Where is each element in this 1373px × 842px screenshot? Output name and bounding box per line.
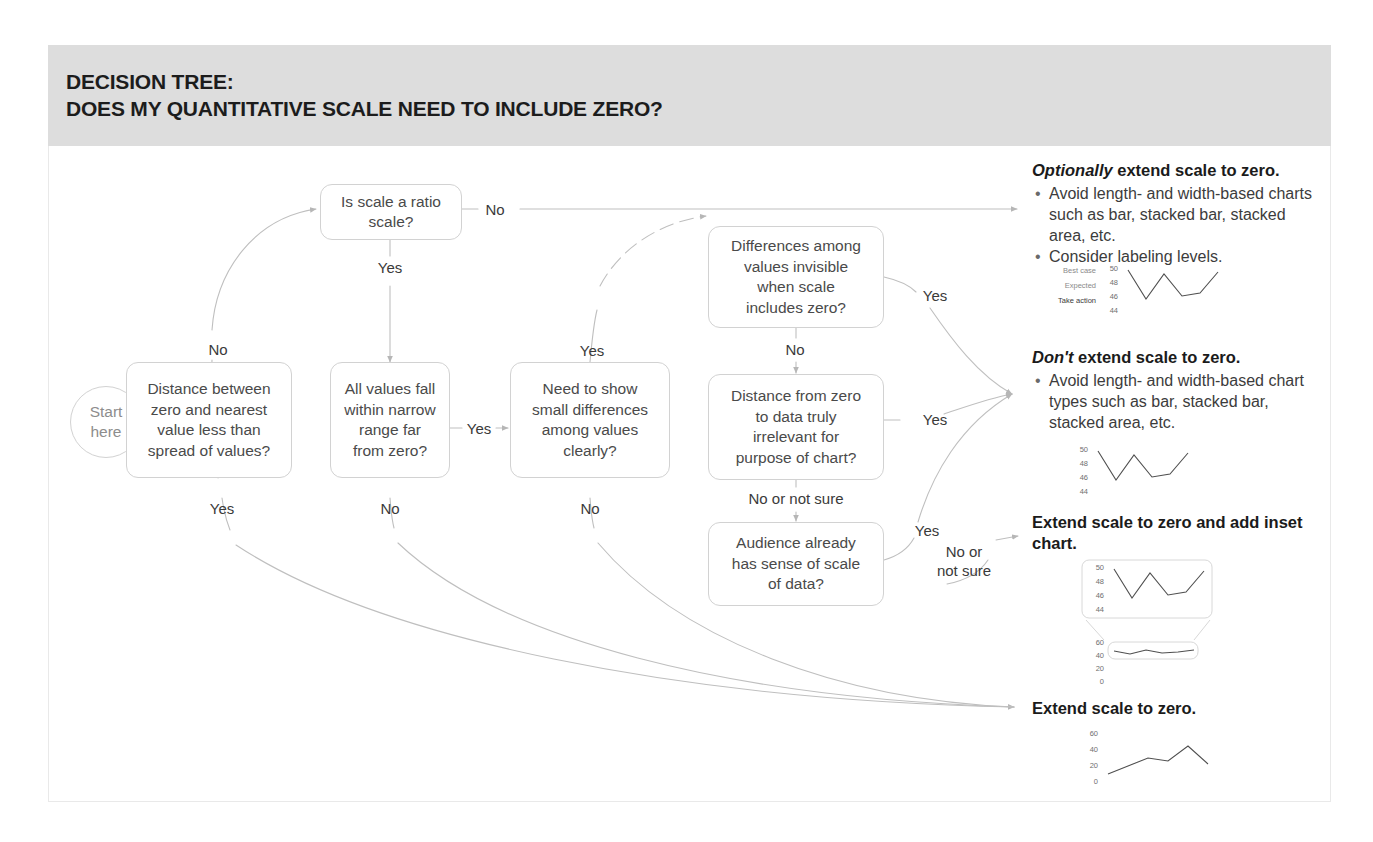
outcome-dont-extend-emphasis: Don't (1032, 348, 1074, 366)
edge-label-audience-yes: Yes (900, 521, 954, 540)
node-audience-sense-of-scale[interactable]: Audience already has sense of scale of d… (708, 522, 884, 606)
ytick-46: 46 (1110, 292, 1118, 301)
outcome-optionally-extend-bullets: Avoid length- and width-based charts suc… (1032, 183, 1324, 267)
ytick-50: 50 (1110, 264, 1118, 273)
outcome-optionally-extend-rest: extend scale to zero. (1113, 161, 1280, 179)
edge-label-ratio-no: No (473, 200, 517, 219)
outcome-optionally-extend-emphasis: Optionally (1032, 161, 1113, 179)
outcome-optionally-extend: Optionally extend scale to zero. Avoid l… (1032, 160, 1324, 267)
ytick-46: 46 (1080, 473, 1088, 482)
series-label-expected: Expected (1065, 281, 1096, 290)
node-distance-irrelevant[interactable]: Distance from zero to data truly irrelev… (708, 374, 884, 480)
outcome-extend-scale-heading: Extend scale to zero. (1032, 698, 1314, 719)
wire-smalldiff-yes-to-invisible (600, 216, 706, 286)
wire-audience-yes-stub (884, 538, 914, 560)
edge-label-narrow-yes: Yes (460, 419, 498, 438)
outcome-dont-extend: Don't extend scale to zero. Avoid length… (1032, 347, 1324, 433)
inset-line-series (1114, 569, 1204, 598)
ytick-0: 0 (1094, 777, 1098, 786)
ytick-50: 50 (1096, 563, 1104, 572)
series-label-take-action: Take action (1058, 296, 1096, 305)
edge-label-irrelevant-yes: Yes (908, 410, 962, 429)
wire-distance-no-to-ratio (212, 209, 316, 330)
ytick-20: 20 (1090, 761, 1098, 770)
edge-label-narrow-no: No (367, 499, 413, 518)
node-need-small-differences[interactable]: Need to show small differences among val… (510, 362, 670, 478)
mini-chart-extend-with-inset: 50 48 46 44 60 40 20 0 (1062, 558, 1242, 686)
mini-line-series (1128, 270, 1218, 299)
wire-audience-no-to-inset (996, 536, 1018, 540)
list-item: Avoid length- and width-based chart type… (1032, 370, 1324, 433)
node-all-values-narrow-range[interactable]: All values fall within narrow range far … (330, 362, 450, 478)
edge-label-invisible-yes: Yes (908, 286, 962, 305)
wire-invisible-yes-to-dont (930, 308, 1012, 394)
wire-distance-yes-to-extend (236, 545, 1014, 707)
node-distance-between-zero[interactable]: Distance between zero and nearest value … (126, 362, 292, 478)
fullscale-line-series (1114, 650, 1194, 654)
ytick-40: 40 (1096, 651, 1104, 660)
edge-label-distance-no: No (190, 340, 246, 359)
mini-chart-optionally-extend: Best case Expected Take action 50 48 46 … (1032, 262, 1222, 324)
outcome-dont-extend-bullets: Avoid length- and width-based chart type… (1032, 370, 1324, 433)
start-here-label: Start here (90, 402, 123, 442)
outcome-dont-extend-rest: extend scale to zero. (1074, 348, 1241, 366)
ytick-0: 0 (1100, 677, 1104, 686)
edge-label-distance-yes: Yes (195, 499, 249, 518)
mini-line-series (1108, 746, 1208, 774)
ytick-20: 20 (1096, 664, 1104, 673)
inset-wedge (1086, 620, 1210, 640)
series-label-best-case: Best case (1063, 266, 1096, 275)
ytick-48: 48 (1110, 278, 1118, 287)
edge-label-invisible-no: No (772, 340, 818, 359)
ytick-50: 50 (1080, 445, 1088, 454)
edge-label-irrelevant-no: No or not sure (732, 489, 860, 508)
fullscale-highlight (1108, 642, 1198, 659)
node-need-small-differences-label: Need to show small differences among val… (532, 379, 648, 461)
node-distance-between-zero-label: Distance between zero and nearest value … (147, 379, 270, 461)
mini-chart-extend-scale: 60 40 20 0 (1062, 725, 1232, 789)
ytick-60: 60 (1096, 638, 1104, 647)
outcome-extend-scale-rest: Extend scale to zero. (1032, 699, 1196, 717)
ytick-60: 60 (1090, 729, 1098, 738)
list-item: Avoid length- and width-based charts suc… (1032, 183, 1324, 246)
ytick-44: 44 (1096, 605, 1104, 614)
ytick-44: 44 (1080, 487, 1088, 496)
node-differences-invisible[interactable]: Differences among values invisible when … (708, 226, 884, 328)
node-audience-sense-of-scale-label: Audience already has sense of scale of d… (732, 533, 860, 595)
node-differences-invisible-label: Differences among values invisible when … (731, 236, 861, 318)
edge-label-smalldiff-no: No (567, 499, 613, 518)
outcome-dont-extend-heading: Don't extend scale to zero. (1032, 347, 1324, 368)
mini-line-series (1098, 451, 1188, 480)
edge-label-ratio-yes: Yes (363, 258, 417, 277)
ytick-46: 46 (1096, 591, 1104, 600)
edge-label-audience-no: No or not sure (928, 542, 1000, 580)
node-all-values-narrow-range-label: All values fall within narrow range far … (344, 379, 435, 461)
edge-label-smalldiff-yes: Yes (565, 341, 619, 360)
ytick-48: 48 (1080, 459, 1088, 468)
outcome-extend-with-inset-heading: Extend scale to zero and add inset chart… (1032, 512, 1314, 554)
outcome-optionally-extend-heading: Optionally extend scale to zero. (1032, 160, 1324, 181)
node-is-scale-ratio-label: Is scale a ratio scale? (341, 192, 441, 233)
outcome-extend-scale: Extend scale to zero. (1032, 698, 1314, 719)
outcome-extend-with-inset-rest: Extend scale to zero and add inset chart… (1032, 513, 1303, 552)
node-is-scale-ratio[interactable]: Is scale a ratio scale? (320, 184, 462, 240)
mini-chart-dont-extend: 50 48 46 44 (1062, 443, 1222, 505)
ytick-44: 44 (1110, 306, 1118, 315)
ytick-48: 48 (1096, 577, 1104, 586)
outcome-extend-with-inset: Extend scale to zero and add inset chart… (1032, 512, 1314, 554)
ytick-40: 40 (1090, 745, 1098, 754)
node-distance-irrelevant-label: Distance from zero to data truly irrelev… (731, 386, 861, 468)
wire-narrow-no-to-extend (398, 543, 1014, 707)
